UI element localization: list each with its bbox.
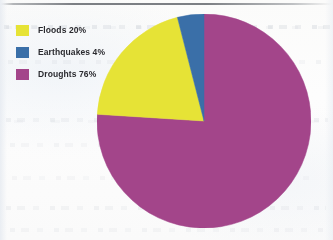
pie-chart: [97, 14, 311, 228]
chart-page: Floods 20% Earthquakes 4% Droughts 76%: [0, 0, 333, 240]
legend-swatch-droughts: [16, 69, 29, 80]
pie-chart-svg: [97, 14, 311, 228]
legend-swatch-floods: [16, 25, 29, 36]
page-edge-shading-left: [0, 0, 7, 240]
page-edge-shading-right: [325, 0, 333, 240]
legend-label-floods: Floods 20%: [38, 25, 86, 36]
chart-legend: Floods 20% Earthquakes 4% Droughts 76%: [16, 24, 108, 90]
legend-item-earthquakes: Earthquakes 4%: [16, 46, 108, 59]
legend-swatch-earthquakes: [16, 47, 29, 58]
scan-line-artifact: [0, 3, 333, 5]
scan-ghost-band: [10, 228, 324, 232]
legend-item-droughts: Droughts 76%: [16, 68, 108, 81]
legend-label-droughts: Droughts 76%: [38, 69, 96, 80]
legend-item-floods: Floods 20%: [16, 24, 108, 37]
legend-label-earthquakes: Earthquakes 4%: [38, 47, 105, 58]
